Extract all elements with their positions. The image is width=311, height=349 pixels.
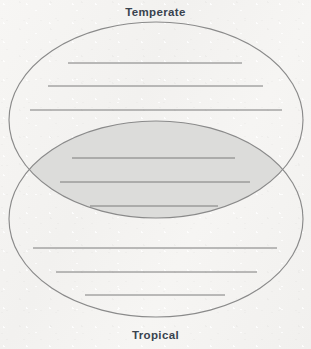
- overlap-fill-rect: [0, 0, 311, 349]
- writing-lines-temperate-only: [30, 63, 282, 110]
- writing-lines-tropical-only: [33, 248, 277, 295]
- venn-diagram-canvas: [0, 0, 311, 349]
- venn-diagram-worksheet: Temperate Tropical: [0, 0, 311, 349]
- venn-label-tropical: Tropical: [0, 330, 311, 342]
- venn-overlap-region: [0, 0, 311, 349]
